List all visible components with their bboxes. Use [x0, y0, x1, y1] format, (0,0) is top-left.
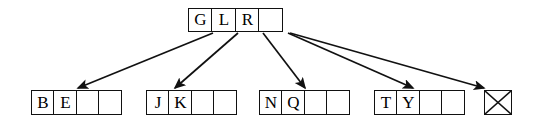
root-node-key-cell: L — [211, 8, 236, 32]
btree-diagram: GLR BE JK NQ TY — [0, 0, 535, 127]
edge-root-to-leaf-4 — [288, 33, 413, 88]
leaf-node-3-empty-cell — [326, 90, 350, 115]
edge-root-to-null-pointer — [290, 33, 484, 88]
leaf-node-2-key-cell: K — [168, 90, 192, 115]
root-node-key-cell: G — [188, 8, 213, 32]
leaf-node-1-empty-cell — [98, 90, 122, 115]
leaf-node-3-empty-cell — [304, 90, 328, 115]
null-pointer-box — [484, 90, 512, 115]
leaf-node-4: TY — [374, 90, 465, 115]
leaf-node-2-key-cell: J — [146, 90, 170, 115]
leaf-node-3-key-cell: N — [259, 90, 283, 115]
leaf-node-3: NQ — [259, 90, 350, 115]
leaf-node-4-empty-cell — [441, 90, 465, 115]
leaf-node-4-key-cell: Y — [396, 90, 420, 115]
leaf-node-4-empty-cell — [419, 90, 443, 115]
crossed-box-icon — [485, 91, 511, 114]
leaf-node-1-empty-cell — [76, 90, 100, 115]
edge-root-to-leaf-2 — [175, 33, 238, 88]
leaf-node-1: BE — [31, 90, 122, 115]
leaf-node-1-key-cell: E — [53, 90, 77, 115]
leaf-node-1-key-cell: B — [31, 90, 55, 115]
root-node: GLR — [188, 8, 283, 32]
leaf-node-2: JK — [146, 90, 237, 115]
leaf-node-2-empty-cell — [213, 90, 237, 115]
leaf-node-2-empty-cell — [191, 90, 215, 115]
edge-root-to-leaf-1 — [78, 33, 213, 88]
root-node-key-cell: R — [235, 8, 260, 32]
leaf-node-3-key-cell: Q — [281, 90, 305, 115]
tree-edges — [78, 33, 484, 88]
root-node-empty-cell — [258, 8, 283, 32]
edge-root-to-leaf-3 — [263, 33, 305, 88]
leaf-node-4-key-cell: T — [374, 90, 398, 115]
